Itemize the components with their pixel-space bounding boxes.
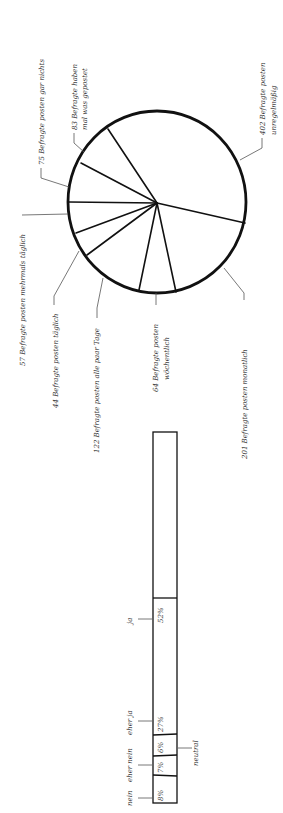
pie-spoke-3 — [69, 202, 157, 203]
label-122: 122 Befragte posten alle paar Tage — [93, 328, 101, 453]
cat-eher-nein: eher nein — [126, 748, 134, 782]
label-201: 201 Befragte posten monatlich — [241, 349, 249, 460]
label-44: 44 Befragte posten täglich — [52, 313, 60, 409]
leader-201 — [224, 268, 244, 300]
label-83-line2: mal was gepostet — [81, 68, 89, 130]
label-402-line2: unregelmäßig — [270, 85, 278, 135]
pct-neutral: 6% — [157, 742, 165, 753]
label-75: 75 Befragte posten gar nichts — [38, 59, 46, 165]
cat-eher-ja: eher ja — [126, 710, 134, 735]
cat-nein: nein — [126, 790, 134, 806]
leader-402 — [240, 138, 262, 160]
label-402-line1: 402 Befragte posten — [259, 62, 267, 136]
leader-122 — [97, 278, 103, 318]
label-57: 57 Befragte posten mehrmals täglich — [19, 234, 27, 366]
label-83-line1: 83 Befragte haben — [71, 64, 79, 130]
pct-eher-nein: 7% — [157, 762, 165, 773]
pie-chart: 75 Befragte posten gar nichts 83 Befragt… — [19, 59, 278, 460]
leader-75 — [41, 168, 69, 187]
chart-canvas: 75 Befragte posten gar nichts 83 Befragt… — [0, 0, 283, 813]
leader-44 — [54, 251, 79, 305]
pct-eher-ja: 27% — [157, 716, 165, 733]
leader-57 — [22, 214, 68, 215]
pct-nein: 8% — [157, 790, 165, 801]
cat-ja: ja — [126, 618, 134, 626]
label-64-line2: wöchentlich — [163, 337, 171, 380]
label-64-line1: 64 Befragte posten — [152, 324, 160, 392]
leader-83 — [74, 133, 84, 152]
cat-neutral: neutral — [192, 740, 200, 766]
pct-ja: 52% — [157, 607, 165, 623]
stacked-bar-chart: 52% 27% 6% 7% 8% ja eher ja eher nein ne… — [126, 432, 200, 806]
